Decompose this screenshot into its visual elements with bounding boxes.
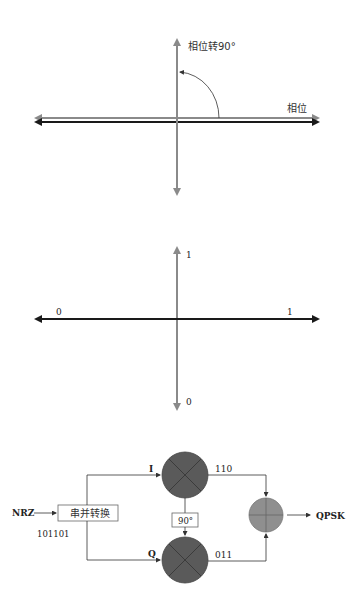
x-right-label: 1 [287,307,293,317]
i-output-bits: 110 [215,464,232,474]
serial-parallel-converter-label: 串并转换 [70,507,110,519]
qpsk-output-label: QPSK [316,511,346,521]
i-mixer [162,452,208,498]
i-branch-line [87,475,160,505]
q-branch-label: Q [148,549,156,559]
vertical-axis-label: 相位转90° [188,40,236,52]
input-bits-label: 101101 [37,529,69,539]
q-mixer [162,537,208,583]
horizontal-axis-label: 相位 [287,102,307,114]
qpsk-modulator-diagram: NRZ 101101 串并转换 I Q 90° 110 0 [12,452,346,583]
q-output-bits: 011 [215,550,232,560]
rotation-arc-arrow [180,72,219,118]
qpsk-figure: 相位转90° 相位 1 0 0 1 NRZ 101101 串并转换 I Q [0,0,364,609]
nrz-input-label: NRZ [12,508,35,518]
i-branch-label: I [149,464,153,474]
i-output-line [208,475,266,496]
y-bottom-label: 0 [186,397,192,407]
phase-shifter-label: 90° [178,516,193,526]
y-top-label: 1 [186,250,192,260]
bpsk-axes-diagram: 1 0 0 1 [36,248,318,409]
x-left-label: 0 [56,307,62,317]
adder [249,498,283,532]
phase-rotation-diagram: 相位转90° 相位 [36,40,318,194]
